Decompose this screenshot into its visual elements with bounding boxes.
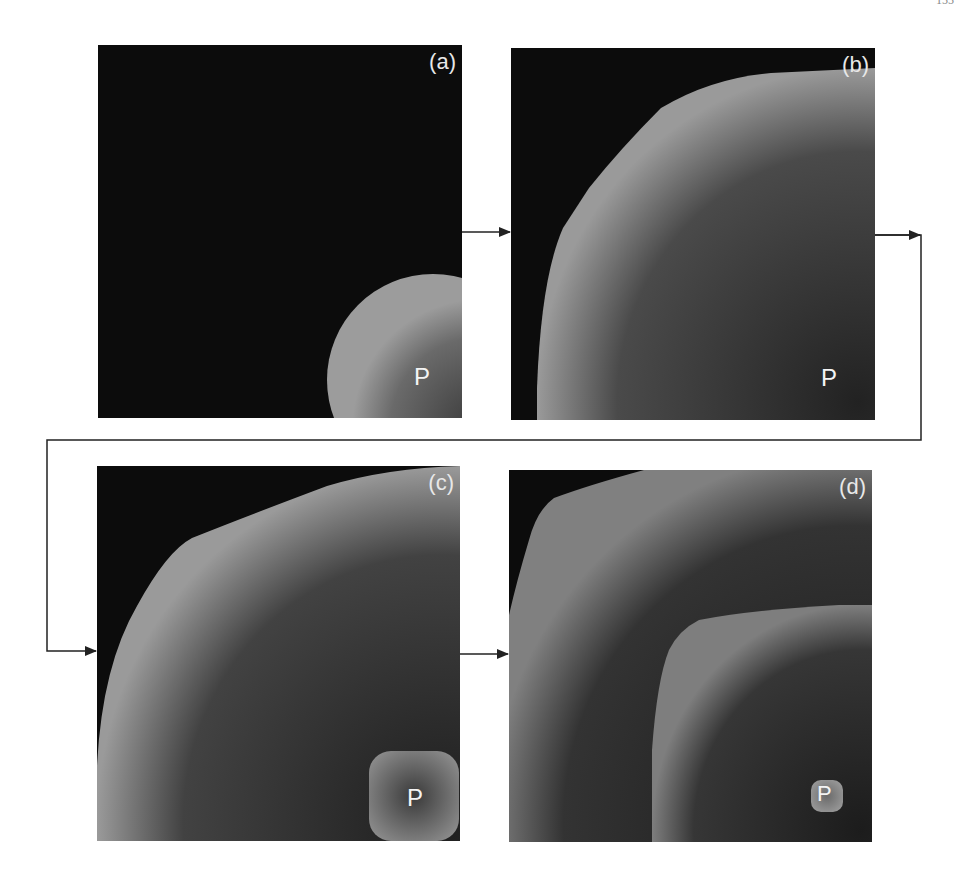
panel-d: (d) P [509, 470, 872, 842]
page-number: 155 [936, 0, 954, 8]
point-p-marker: P [817, 783, 832, 805]
panel-label: (a) [429, 51, 456, 73]
panel-a: (a) P [98, 45, 462, 418]
panel-label: (c) [428, 472, 454, 494]
point-p-marker: P [414, 365, 430, 389]
panel-label: (d) [839, 476, 866, 498]
point-p-marker: P [821, 366, 837, 390]
growth-region-image [98, 45, 462, 418]
panel-b: (b) P [511, 48, 875, 420]
panel-label: (b) [842, 54, 869, 76]
panel-c: (c) P [97, 466, 460, 841]
point-p-marker: P [407, 786, 423, 810]
growth-region-image [97, 466, 460, 841]
